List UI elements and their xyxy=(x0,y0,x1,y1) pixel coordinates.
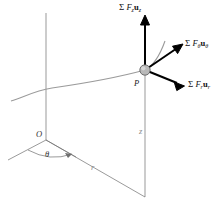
label-origin: O xyxy=(36,130,42,139)
coordinate-axes xyxy=(8,13,145,197)
label-particle-p: P xyxy=(134,79,139,88)
sigma-glyph-r: Σ xyxy=(188,79,193,89)
vector-theta-force xyxy=(145,44,183,70)
u-sub-r: r xyxy=(208,84,210,90)
label-r-force: Σ Frur xyxy=(188,80,210,90)
u-sub-z: z xyxy=(139,7,141,13)
label-radial-axis: r xyxy=(91,163,94,172)
sigma-glyph-theta: Σ xyxy=(185,38,190,48)
vector-z-force xyxy=(141,15,150,70)
force-vectors xyxy=(141,15,185,91)
cylindrical-force-diagram: Σ Fzuz Σ Fθuθ Σ Frur P O θ r z xyxy=(0,0,222,208)
ground-axis-left xyxy=(8,140,46,160)
vector-r-force xyxy=(145,70,185,91)
sigma-glyph-z: Σ xyxy=(119,2,124,12)
label-theta-force: Σ Fθuθ xyxy=(185,39,208,49)
particle-node xyxy=(140,65,150,75)
label-theta-angle: θ xyxy=(45,150,49,159)
diagram-canvas xyxy=(0,0,222,208)
u-sub-theta: θ xyxy=(205,43,208,49)
label-z-axis: z xyxy=(139,127,142,136)
label-z-force: Σ Fzuz xyxy=(119,3,141,13)
